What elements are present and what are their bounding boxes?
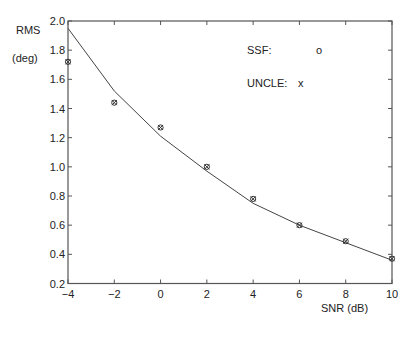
data-markers — [65, 59, 394, 261]
x-axis-label: SNR (dB) — [321, 302, 368, 314]
x-tick-label: −2 — [108, 288, 121, 300]
legend: SSF: o UNCLE: x — [247, 44, 322, 89]
legend-ssf-marker: o — [316, 44, 322, 56]
y-tick-label: 1.6 — [50, 73, 65, 85]
y-tick-label: 1.2 — [50, 132, 65, 144]
plot-axes — [68, 21, 392, 284]
y-tick-label: 0.2 — [50, 278, 65, 290]
axis-ticks: −4−202468100.20.40.60.81.01.21.41.61.82.… — [50, 15, 398, 300]
legend-uncle-label: UNCLE: — [247, 77, 287, 89]
bound-line — [68, 28, 392, 260]
x-tick-label: 6 — [296, 288, 302, 300]
y-tick-label: 0.6 — [50, 219, 65, 231]
plot-frame — [68, 21, 392, 284]
rms-vs-snr-chart: −4−202468100.20.40.60.81.01.21.41.61.82.… — [0, 0, 412, 337]
uncle-marker — [297, 223, 302, 228]
legend-uncle-marker: x — [298, 77, 304, 89]
x-tick-label: 0 — [158, 288, 164, 300]
y-tick-label: 1.4 — [50, 103, 65, 115]
uncle-marker — [251, 196, 256, 201]
x-tick-label: 10 — [386, 288, 398, 300]
y-axis-label-rms: RMS — [16, 24, 40, 36]
x-tick-label: 4 — [250, 288, 256, 300]
x-tick-label: 8 — [343, 288, 349, 300]
y-tick-label: 1.0 — [50, 161, 65, 173]
y-tick-label: 0.8 — [50, 190, 65, 202]
legend-ssf-label: SSF: — [247, 44, 271, 56]
y-tick-label: 1.8 — [50, 44, 65, 56]
y-axis-label-unit: (deg) — [12, 52, 38, 64]
y-tick-label: 2.0 — [50, 15, 65, 27]
uncle-marker — [112, 100, 117, 105]
x-tick-label: 2 — [204, 288, 210, 300]
uncle-marker — [204, 164, 209, 169]
y-tick-label: 0.4 — [50, 248, 65, 260]
bound-curve — [68, 28, 392, 260]
uncle-marker — [158, 125, 163, 130]
